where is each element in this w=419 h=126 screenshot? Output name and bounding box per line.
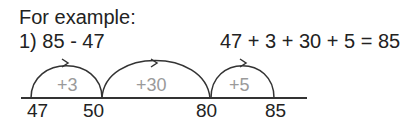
jump-label-2: +30 — [136, 75, 167, 95]
jump-label-3: +5 — [229, 75, 250, 95]
point-label-50: 50 — [83, 101, 104, 121]
jump-label-1: +3 — [57, 75, 78, 95]
point-label-80: 80 — [196, 101, 217, 121]
point-label-85: 85 — [265, 101, 286, 121]
point-label-47: 47 — [27, 101, 48, 121]
